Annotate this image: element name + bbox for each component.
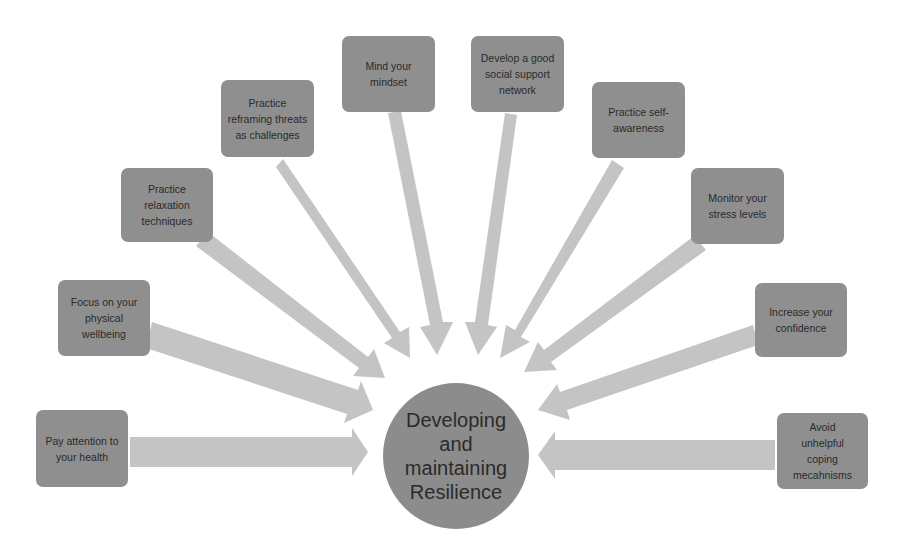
node-self-awareness: Practice self-awareness (592, 82, 685, 158)
arrow-social (465, 113, 517, 355)
center-label: Developing and maintaining Resilience (396, 408, 516, 504)
node-label: Focus on your physical wellbeing (64, 294, 144, 342)
node-health: Pay attention to your health (36, 410, 128, 487)
node-social: Develop a good social support network (471, 36, 564, 112)
arrow-self-awareness (500, 160, 624, 358)
arrow-health (130, 428, 368, 476)
arrow-reframing (276, 159, 410, 358)
node-label: Pay attention to your health (42, 433, 122, 465)
node-physical: Focus on your physical wellbeing (58, 280, 150, 356)
node-label: Practice self-awareness (598, 104, 679, 136)
node-coping: Avoid unhelpful coping mecahnisms (777, 413, 868, 489)
node-label: Avoid unhelpful coping mecahnisms (791, 419, 855, 483)
node-label: Mind your mindset (359, 58, 419, 90)
node-stress: Monitor your stress levels (691, 168, 784, 244)
node-mindset: Mind your mindset (342, 36, 435, 112)
arrow-coping (538, 431, 775, 479)
node-relaxation: Practice relaxation techniques (121, 168, 213, 242)
node-label: Practice relaxation techniques (127, 181, 207, 229)
center-node: Developing and maintaining Resilience (383, 383, 529, 529)
node-label: Develop a good social support network (477, 50, 558, 98)
resilience-diagram: Pay attention to your health Focus on yo… (0, 0, 899, 542)
node-confidence: Increase your confidence (755, 283, 847, 357)
node-label: Increase your confidence (764, 304, 838, 336)
node-reframing: Practice reframing threats as challenges (221, 80, 314, 157)
arrow-mindset (388, 111, 453, 355)
node-label: Practice reframing threats as challenges (227, 95, 308, 143)
node-label: Monitor your stress levels (702, 190, 774, 222)
